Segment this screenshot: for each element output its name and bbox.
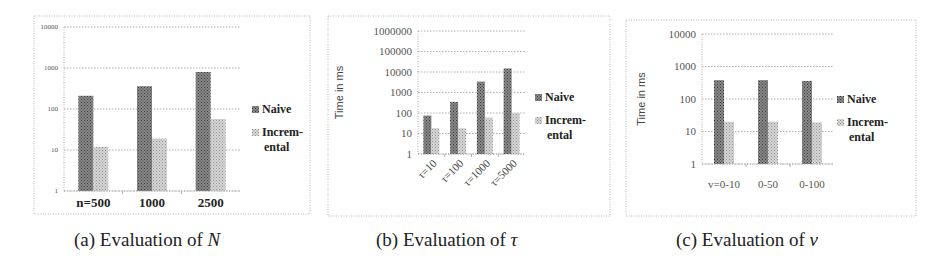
- bar-incremental: [512, 113, 520, 154]
- figure-canvas: 110100100010000n=50010002500NaiveIncrem-…: [0, 0, 935, 266]
- legend-incremental-swatch: [535, 117, 542, 124]
- y-tick-label: 1: [407, 148, 413, 160]
- bar-naive: [758, 80, 768, 164]
- legend-incremental-label-cont: ental: [547, 128, 573, 142]
- y-tick-label: 100: [48, 105, 59, 113]
- x-category-label: v=0-10: [708, 178, 740, 190]
- legend-naive-label: Naive: [847, 92, 877, 106]
- x-category-label: n=500: [76, 195, 110, 210]
- y-tick-label: 10: [401, 127, 413, 139]
- caption-c: (c) Evaluation of v: [676, 229, 818, 251]
- bar-incremental: [458, 128, 466, 154]
- caption-a-text: (a) Evaluation of: [74, 229, 207, 250]
- y-tick-label: 1000: [390, 86, 413, 98]
- caption-b-var: τ: [511, 229, 518, 250]
- bar-naive: [450, 102, 458, 154]
- chart-a: 110100100010000n=50010002500NaiveIncrem-…: [34, 16, 310, 214]
- caption-a-var: N: [207, 229, 220, 250]
- legend-incremental-label-cont: ental: [264, 140, 290, 154]
- bar-naive: [423, 116, 431, 154]
- legend-incremental-label: Increm-: [545, 113, 586, 127]
- legend-naive-label: Naive: [545, 90, 575, 104]
- y-tick-label: 100000: [379, 45, 413, 57]
- y-tick-label: 10000: [385, 66, 413, 78]
- legend-incremental-label: Increm-: [847, 115, 888, 129]
- y-axis-label: Time in ms: [333, 65, 345, 119]
- chart-c: 110100100010000v=0-100-500-100Time in ms…: [626, 20, 916, 216]
- bar-naive: [137, 86, 152, 191]
- legend-incremental-swatch: [252, 129, 259, 136]
- legend-naive-swatch: [535, 94, 542, 101]
- bar-incremental: [211, 119, 226, 191]
- bar-naive: [78, 96, 93, 191]
- y-tick-label: 10: [685, 125, 697, 137]
- chart-b: 1101001000100001000001000000τ=10τ=100τ=1…: [328, 16, 610, 216]
- y-tick-label: 100: [396, 107, 413, 119]
- caption-c-text: (c) Evaluation of: [676, 229, 809, 250]
- x-category-label: 0-50: [758, 178, 779, 190]
- legend-incremental-swatch: [837, 119, 844, 126]
- bar-naive: [802, 81, 812, 164]
- caption-b-text: (b) Evaluation of: [376, 229, 511, 250]
- y-tick-label: 1000: [674, 60, 697, 72]
- y-tick-label: 1000: [44, 64, 59, 72]
- legend-incremental-label-cont: ental: [849, 130, 875, 144]
- y-axis-label: Time in ms: [635, 72, 647, 126]
- legend-naive-swatch: [837, 96, 844, 103]
- y-tick-label: 1: [55, 187, 59, 195]
- x-category-label: 2500: [198, 195, 224, 210]
- y-tick-label: 1000000: [374, 25, 413, 37]
- caption-a: (a) Evaluation of N: [74, 229, 220, 251]
- legend-incremental-label: Increm-: [262, 125, 303, 139]
- y-tick-label: 10000: [41, 23, 59, 31]
- charts-root: 110100100010000n=50010002500NaiveIncrem-…: [34, 16, 916, 216]
- bar-incremental: [724, 122, 734, 164]
- caption-b: (b) Evaluation of τ: [376, 229, 517, 251]
- y-tick-label: 10: [51, 146, 59, 154]
- y-tick-label: 1: [691, 158, 697, 170]
- bar-naive: [504, 68, 512, 154]
- y-tick-label: 100: [680, 93, 697, 105]
- bar-naive: [196, 72, 211, 191]
- y-tick-label: 10000: [669, 28, 697, 40]
- bar-naive: [714, 80, 724, 164]
- bar-incremental: [152, 139, 167, 191]
- x-category-label: 0-100: [799, 178, 825, 190]
- bar-incremental: [485, 118, 493, 154]
- caption-c-var: v: [809, 229, 817, 250]
- bar-incremental: [768, 122, 778, 164]
- bar-naive: [477, 82, 485, 154]
- x-category-label: 1000: [139, 195, 165, 210]
- bar-incremental: [812, 122, 822, 164]
- bar-incremental: [93, 147, 108, 191]
- bar-incremental: [431, 128, 439, 154]
- legend-naive-label: Naive: [262, 102, 292, 116]
- legend-naive-swatch: [252, 106, 259, 113]
